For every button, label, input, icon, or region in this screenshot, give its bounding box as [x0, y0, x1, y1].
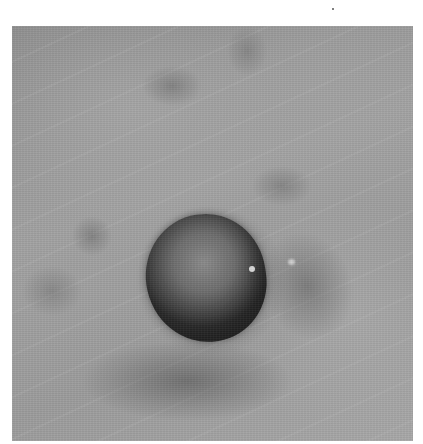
clinical-photo	[12, 26, 413, 441]
photo-grain	[12, 26, 413, 441]
dust-speck	[332, 8, 334, 10]
